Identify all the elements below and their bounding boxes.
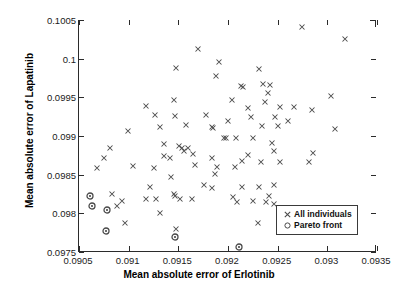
legend-item-pareto-front: Pareto front (281, 220, 352, 231)
x-tick-top (327, 20, 328, 25)
scatter-plot-figure: 0.09050.0910.09150.0920.09250.0930.09350… (0, 0, 398, 299)
y-tick-right (371, 175, 376, 176)
x-tick (129, 246, 130, 251)
y-tick (79, 97, 84, 98)
x-tick (178, 246, 179, 251)
x-tick-top (178, 20, 179, 25)
y-tick-right (371, 252, 376, 253)
y-tick (79, 252, 84, 253)
axis-right-top-stub (375, 20, 376, 27)
legend-label: All individuals (294, 209, 352, 220)
x-tick-top (278, 20, 279, 25)
legend-circle-icon (281, 221, 294, 230)
y-axis-label: Mean absolute error of Lapatinib (24, 16, 35, 246)
y-tick-right (371, 59, 376, 60)
legend-item-all-individuals: All individuals (281, 209, 352, 220)
y-tick-label: 0.0995 (47, 92, 76, 103)
y-tick-label: 0.1005 (47, 15, 76, 26)
y-tick (79, 213, 84, 214)
y-tick (79, 136, 84, 137)
x-tick-top (129, 20, 130, 25)
y-tick-right (371, 136, 376, 137)
x-tick (278, 246, 279, 251)
x-tick (377, 246, 378, 251)
legend: All individuals Pareto front (276, 205, 358, 235)
y-tick-label: 0.0975 (47, 247, 76, 258)
x-tick-label: 0.0935 (361, 255, 390, 266)
legend-cross-icon (281, 210, 294, 219)
y-tick-right (371, 213, 376, 214)
y-tick (79, 59, 84, 60)
y-tick-label: 0.098 (52, 208, 76, 219)
x-axis-label: Mean absolute error of Erlotinib (0, 269, 398, 280)
y-tick-label: 0.099 (52, 131, 76, 142)
x-tick-label: 0.0925 (262, 255, 291, 266)
x-tick-label: 0.0915 (163, 255, 192, 266)
x-tick-top (377, 20, 378, 25)
x-tick-top (228, 20, 229, 25)
x-tick (79, 246, 80, 251)
y-tick-label: 0.1 (63, 53, 76, 64)
axis-top-left-stub (78, 20, 84, 21)
x-tick (327, 246, 328, 251)
y-tick-label: 0.0985 (47, 169, 76, 180)
x-tick-label: 0.092 (215, 255, 239, 266)
x-tick-label: 0.093 (314, 255, 338, 266)
axis-right-bottom-stub (375, 245, 376, 252)
y-tick (79, 175, 84, 176)
x-tick (228, 246, 229, 251)
x-tick-label: 0.091 (116, 255, 140, 266)
legend-label: Pareto front (294, 220, 342, 231)
y-tick-right (371, 97, 376, 98)
